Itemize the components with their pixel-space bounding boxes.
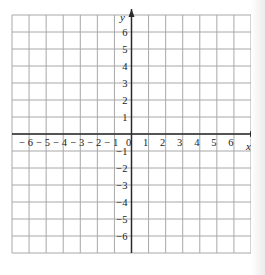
x-tick-label: 1	[143, 137, 148, 148]
coordinate-grid: − 6− 5− 4− 3− 2− 10123456 654321−1−2−3−4…	[0, 0, 265, 275]
y-axis-label: y	[119, 11, 125, 23]
x-tick-label: − 4	[53, 137, 68, 148]
x-tick-label: 5	[211, 137, 216, 148]
axes	[12, 9, 258, 253]
y-tick-label: 3	[122, 78, 127, 89]
x-tick-label: 3	[177, 137, 182, 148]
y-axis-arrow-icon	[129, 9, 135, 17]
y-tick-label: 6	[122, 27, 127, 38]
y-tick-label: 5	[122, 44, 127, 55]
x-tick-label: − 2	[87, 137, 101, 148]
y-tick-label: −3	[116, 180, 127, 191]
x-tick-label: − 5	[36, 137, 50, 148]
y-tick-label: −6	[116, 231, 127, 242]
y-tick-label: −1	[116, 146, 127, 157]
y-tick-label: 4	[122, 61, 128, 72]
x-tick-label: 4	[194, 137, 200, 148]
x-tick-label: 6	[228, 137, 233, 148]
y-tick-label: −5	[116, 214, 127, 225]
y-tick-label: −2	[116, 163, 127, 174]
page-edge-shadow	[251, 0, 265, 275]
x-tick-label: − 3	[70, 137, 84, 148]
y-tick-label: 1	[122, 112, 127, 123]
y-tick-label: −4	[116, 197, 128, 208]
x-tick-label: 2	[160, 137, 165, 148]
x-tick-label: − 6	[19, 137, 33, 148]
y-tick-label: 2	[122, 95, 127, 106]
